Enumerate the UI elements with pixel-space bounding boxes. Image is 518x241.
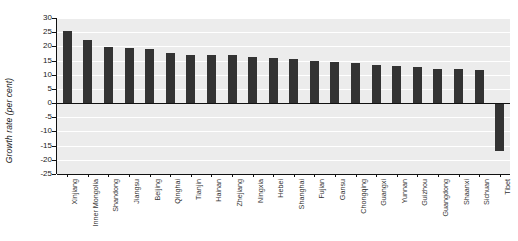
zero-line xyxy=(57,103,510,104)
bar xyxy=(475,70,484,103)
bar-series xyxy=(57,18,510,174)
y-axis-tick xyxy=(52,61,56,62)
x-axis-tick-label: Chongqing xyxy=(359,179,368,214)
x-axis-tick xyxy=(376,174,377,177)
y-axis-tick-label: 20 xyxy=(22,41,52,50)
y-axis-tick xyxy=(52,160,56,161)
y-axis-tick-label: 5 xyxy=(22,84,52,93)
x-axis-tick xyxy=(232,174,233,177)
x-axis-tick xyxy=(479,174,480,177)
y-axis-tick xyxy=(52,131,56,132)
bar xyxy=(372,65,381,103)
y-axis-tick xyxy=(52,117,56,118)
x-axis-tick xyxy=(417,174,418,177)
y-axis-tick-label: 10 xyxy=(22,70,52,79)
bar xyxy=(351,63,360,103)
x-axis-tick xyxy=(397,174,398,177)
y-axis-tick-label: 15 xyxy=(22,56,52,65)
plot-area xyxy=(57,18,510,174)
y-axis-tick-label: -5 xyxy=(22,112,52,121)
y-axis-tick-label: 25 xyxy=(22,27,52,36)
x-axis-tick xyxy=(294,174,295,177)
bar xyxy=(495,103,504,151)
y-axis-tick-label: 30 xyxy=(22,13,52,22)
y-axis-tick xyxy=(52,89,56,90)
x-axis-tick-label: Guizhou xyxy=(420,179,429,206)
x-axis-tick-label: Hebei xyxy=(276,179,285,198)
x-axis-tick xyxy=(459,174,460,177)
y-axis-tick xyxy=(52,46,56,47)
bar xyxy=(145,49,154,103)
bar xyxy=(104,47,113,103)
x-axis-tick-label: Jiangsu xyxy=(132,179,141,204)
x-axis-tick xyxy=(211,174,212,177)
x-axis-tick-label: Inner Mongolia xyxy=(91,179,100,227)
growth-rate-bar-chart: Growth rate (per cent) 302520151050-5-10… xyxy=(0,0,518,241)
bar xyxy=(166,53,175,103)
x-axis-tick xyxy=(129,174,130,177)
y-axis-tick-label: -10 xyxy=(22,126,52,135)
x-axis-tick xyxy=(170,174,171,177)
x-axis-tick-label: Xinjiang xyxy=(70,179,79,205)
x-axis-tick xyxy=(273,174,274,177)
x-axis-tick xyxy=(191,174,192,177)
x-axis-tick xyxy=(150,174,151,177)
x-axis-tick-label: Zhejiang xyxy=(235,179,244,207)
y-axis-tick xyxy=(52,32,56,33)
x-axis-tick xyxy=(314,174,315,177)
bar xyxy=(63,31,72,103)
x-axis-tick-label: Shanghai xyxy=(297,179,306,209)
bar xyxy=(125,48,134,103)
y-axis-tick xyxy=(52,146,56,147)
x-axis-tick-label: Fujian xyxy=(317,179,326,199)
x-axis-tick xyxy=(500,174,501,177)
x-axis-tick-label: Yunnan xyxy=(400,179,409,203)
bar xyxy=(454,69,463,103)
x-axis-tick xyxy=(253,174,254,177)
y-axis-tick xyxy=(52,18,56,19)
x-axis-tick-label: Qinghai xyxy=(173,179,182,204)
x-axis-ticks: XinjiangInner MongoliaShandongJiangsuBei… xyxy=(57,174,510,241)
bar xyxy=(310,61,319,103)
y-axis-tick-label: 0 xyxy=(22,98,52,107)
bar xyxy=(248,57,257,104)
x-axis-tick-label: Shaanxi xyxy=(462,179,471,205)
y-axis-spine xyxy=(56,18,57,174)
y-axis-ticks: 302520151050-5-10-15-20-25 xyxy=(0,0,52,241)
y-axis-tick xyxy=(52,75,56,76)
bar xyxy=(433,69,442,103)
x-axis-tick-label: Gansu xyxy=(338,179,347,200)
bar xyxy=(413,67,422,103)
x-axis-tick-label: Tianjin xyxy=(194,179,203,200)
bar xyxy=(392,66,401,103)
bar xyxy=(269,58,278,103)
bar xyxy=(330,62,339,103)
x-axis-tick xyxy=(108,174,109,177)
x-axis-tick-label: Shandong xyxy=(111,179,120,212)
x-axis-tick-label: Beijing xyxy=(153,179,162,201)
x-axis-tick-label: Guangdong xyxy=(441,179,450,217)
x-axis-tick-label: Ningxia xyxy=(256,179,265,203)
bar xyxy=(207,55,216,103)
bar xyxy=(289,59,298,103)
x-axis-tick xyxy=(88,174,89,177)
y-axis-tick xyxy=(52,174,56,175)
x-axis-tick xyxy=(438,174,439,177)
x-axis-tick xyxy=(356,174,357,177)
bar xyxy=(83,40,92,103)
x-axis-tick-label: Sichuan xyxy=(482,179,491,205)
x-axis-tick-label: Guangxi xyxy=(379,179,388,206)
y-axis-tick-label: -25 xyxy=(22,169,52,178)
y-axis-tick-label: -15 xyxy=(22,141,52,150)
y-axis-tick xyxy=(52,103,56,104)
y-axis-tick-label: -20 xyxy=(22,155,52,164)
x-axis-tick xyxy=(335,174,336,177)
bar xyxy=(186,55,195,104)
x-axis-tick-label: Hainan xyxy=(214,179,223,202)
bar xyxy=(228,55,237,103)
x-axis-tick-label: Tibet xyxy=(503,179,512,195)
x-axis-tick xyxy=(67,174,68,177)
